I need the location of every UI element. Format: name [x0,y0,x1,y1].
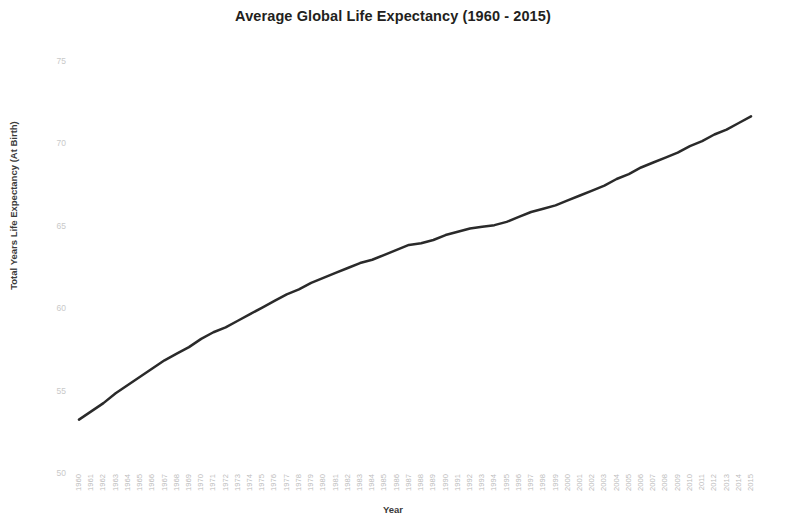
x-axis-tick-1991: 1991 [454,474,462,491]
x-axis-tick-1960: 1960 [75,474,83,491]
x-axis-tick-2006: 2006 [637,474,645,491]
x-axis-tick-1994: 1994 [490,474,498,491]
x-axis-tick-1989: 1989 [429,474,437,491]
y-axis-tick-70: 70 [32,139,66,148]
x-axis-tick-1969: 1969 [185,474,193,491]
x-axis-tick-2015: 2015 [747,474,755,491]
x-axis-tick-1967: 1967 [161,474,169,491]
x-axis-tick-1966: 1966 [148,474,156,491]
x-axis-tick-2000: 2000 [564,474,572,491]
x-axis-tick-2003: 2003 [600,474,608,491]
x-axis-tick-1988: 1988 [417,474,425,491]
x-axis-tick-1964: 1964 [124,474,132,491]
x-axis-tick-1970: 1970 [197,474,205,491]
y-axis-tick-50: 50 [32,469,66,478]
x-axis-tick-2013: 2013 [723,474,731,491]
x-axis-tick-1974: 1974 [246,474,254,491]
y-axis-tick-65: 65 [32,222,66,231]
x-axis-tick-1999: 1999 [552,474,560,491]
x-axis-tick-1980: 1980 [319,474,327,491]
x-axis-tick-2012: 2012 [710,474,718,491]
x-axis-title: Year [0,504,786,515]
x-axis-tick-2004: 2004 [613,474,621,491]
x-axis-tick-1961: 1961 [87,474,95,491]
x-axis-tick-1984: 1984 [368,474,376,491]
y-axis-tick-75: 75 [32,57,66,66]
chart-container: Average Global Life Expectancy (1960 - 2… [0,0,786,527]
x-axis-tick-2007: 2007 [649,474,657,491]
x-axis-tick-1975: 1975 [258,474,266,491]
x-axis-tick-1981: 1981 [332,474,340,491]
x-axis-tick-1962: 1962 [99,474,107,491]
x-axis-tick-2002: 2002 [588,474,596,491]
chart-title: Average Global Life Expectancy (1960 - 2… [0,8,786,24]
y-axis-tick-55: 55 [32,387,66,396]
x-axis-tick-1976: 1976 [270,474,278,491]
x-axis-tick-1963: 1963 [112,474,120,491]
x-axis-tick-1996: 1996 [515,474,523,491]
x-axis-tick-1979: 1979 [307,474,315,491]
x-axis-tick-1973: 1973 [234,474,242,491]
x-axis-tick-1965: 1965 [136,474,144,491]
x-axis-tick-2010: 2010 [686,474,694,491]
x-axis-tick-1997: 1997 [527,474,535,491]
x-axis-tick-2008: 2008 [661,474,669,491]
x-axis-tick-1983: 1983 [356,474,364,491]
x-axis-tick-1971: 1971 [209,474,217,491]
x-axis-tick-1993: 1993 [478,474,486,491]
line-chart-svg [75,62,755,474]
y-axis-title: Total Years Life Expectancy (At Birth) [8,26,19,386]
x-axis-tick-2011: 2011 [698,474,706,490]
x-axis-tick-1995: 1995 [503,474,511,491]
x-axis-tick-2014: 2014 [735,474,743,491]
x-axis-tick-1982: 1982 [344,474,352,491]
x-axis-tick-1972: 1972 [222,474,230,491]
x-axis-tick-1978: 1978 [295,474,303,491]
x-axis-tick-1992: 1992 [466,474,474,491]
x-axis-tick-2005: 2005 [625,474,633,491]
x-axis-tick-1987: 1987 [405,474,413,491]
x-axis-tick-1986: 1986 [393,474,401,491]
x-axis-tick-1998: 1998 [539,474,547,491]
life-expectancy-line [79,116,751,419]
x-axis-tick-2001: 2001 [576,474,584,491]
x-axis-tick-1968: 1968 [173,474,181,491]
y-axis-tick-60: 60 [32,304,66,313]
x-axis-tick-1985: 1985 [380,474,388,491]
x-axis-tick-1977: 1977 [283,474,291,491]
plot-area [75,62,755,474]
x-axis-tick-1990: 1990 [442,474,450,491]
x-axis-tick-2009: 2009 [674,474,682,491]
